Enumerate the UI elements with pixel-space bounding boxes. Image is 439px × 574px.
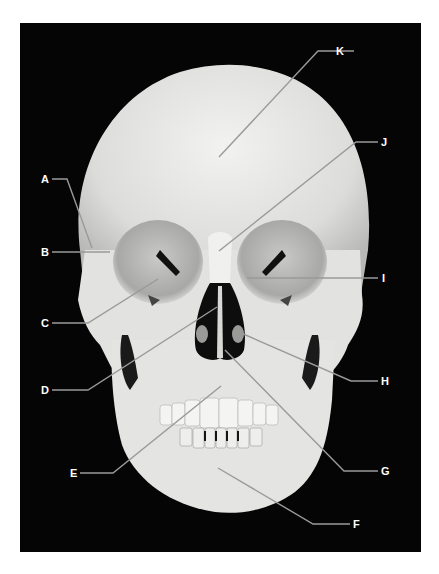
orbit-left (113, 220, 203, 304)
label-j: J (381, 137, 387, 148)
skull-figure-panel: A B C D E F G H I J K (20, 23, 421, 552)
label-i: I (382, 273, 385, 284)
label-d: D (41, 385, 49, 396)
label-b: B (41, 247, 49, 258)
label-k: K (336, 46, 344, 57)
label-a: A (41, 174, 49, 185)
orbit-right (237, 220, 327, 304)
label-c: C (41, 318, 49, 329)
label-h: H (381, 376, 389, 387)
label-e: E (70, 468, 77, 479)
label-g: G (381, 466, 390, 477)
skull-illustration (20, 23, 421, 552)
label-f: F (353, 519, 360, 530)
